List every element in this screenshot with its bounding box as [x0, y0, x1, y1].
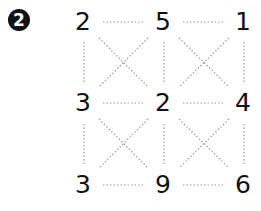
grid-number: 6 [228, 171, 258, 199]
grid-number: 3 [68, 89, 98, 117]
grid-number: 4 [228, 89, 258, 117]
diag-b-cell-1 [99, 38, 148, 87]
grid-number: 5 [148, 8, 178, 36]
diag-a-cell-3 [99, 119, 148, 168]
grid-number: 2 [148, 89, 178, 117]
grid-number: 1 [228, 8, 258, 36]
diag-a-cell-1 [99, 38, 148, 87]
grid-number: 3 [68, 171, 98, 199]
grid-number: 2 [68, 8, 98, 36]
connector-lines [0, 0, 261, 211]
grid-number: 9 [148, 171, 178, 199]
diag-b-cell-3 [99, 119, 148, 168]
